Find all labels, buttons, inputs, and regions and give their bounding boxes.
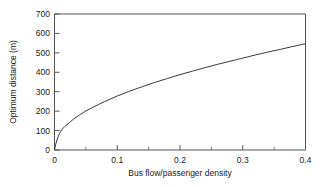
chart-figure: 700 600 500 400 300 200 100 0 0 0.1 0.2 … <box>0 0 326 187</box>
x-tick-label: 0.3 <box>237 155 249 165</box>
x-tick-label: 0.1 <box>111 155 123 165</box>
y-tick-label: 400 <box>36 67 50 77</box>
optimum-distance-line-chart: 700 600 500 400 300 200 100 0 0 0.1 0.2 … <box>0 0 326 187</box>
x-tick-label: 0.2 <box>174 155 186 165</box>
y-tick-label: 100 <box>36 126 50 136</box>
y-tick-label: 0 <box>45 145 50 155</box>
y-tick-label: 500 <box>36 48 50 58</box>
y-tick-label: 700 <box>36 9 50 19</box>
x-tick-label: 0 <box>52 155 57 165</box>
y-axis-title: Optimum distance (m) <box>8 40 18 124</box>
y-tick-label: 300 <box>36 87 50 97</box>
y-tick-label: 600 <box>36 28 50 38</box>
x-tick-label: 0.4 <box>300 155 312 165</box>
y-tick-label: 200 <box>36 106 50 116</box>
x-axis-title: Bus flow/passenger density <box>128 168 232 178</box>
